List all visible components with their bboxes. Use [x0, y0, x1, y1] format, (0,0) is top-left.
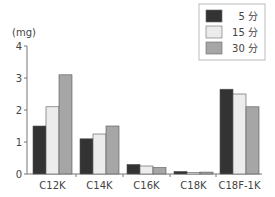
- x-tick-label: C12K: [39, 180, 66, 191]
- y-tick-label: 0: [16, 169, 22, 180]
- bar-group-c16k: [127, 164, 166, 174]
- bar: [153, 168, 166, 174]
- bar: [106, 126, 119, 174]
- bar: [46, 107, 59, 174]
- bar: [174, 171, 187, 174]
- bar: [220, 89, 233, 174]
- bar: [246, 107, 259, 174]
- x-tick-label: C18K: [180, 180, 207, 191]
- x-tick-label: C18F-1K: [219, 180, 261, 191]
- y-tick-label: 2: [16, 105, 22, 116]
- bar: [59, 75, 72, 174]
- legend: 5 分15 分30 分: [199, 4, 265, 60]
- legend-swatch: [206, 10, 222, 22]
- legend-item: 15 分: [206, 26, 258, 38]
- x-tick-label: C14K: [86, 180, 113, 191]
- bar: [33, 126, 46, 174]
- x-tick-label: C16K: [133, 180, 160, 191]
- y-tick-label: 1: [16, 137, 22, 148]
- legend-label: 5 分: [238, 11, 258, 22]
- bar: [80, 139, 93, 174]
- x-axis-labels: C12KC14KC16KC18KC18F-1K: [39, 174, 261, 191]
- y-tick-label: 4: [16, 41, 22, 52]
- bar: [140, 166, 153, 174]
- y-axis-unit: (mg): [12, 27, 36, 38]
- bar-group-c18f-1k: [220, 89, 259, 174]
- y-tick-label: 3: [16, 73, 22, 84]
- legend-swatch: [206, 42, 222, 54]
- bar-group-c18k: [174, 171, 213, 174]
- bar-chart: (mg) 01234 C12KC14KC16KC18KC18F-1K 5 分15…: [0, 0, 275, 197]
- y-axis-ticks: 01234: [16, 41, 27, 180]
- legend-label: 30 分: [232, 43, 258, 54]
- bar: [127, 164, 140, 174]
- bar-group-c12k: [33, 75, 72, 174]
- legend-item: 30 分: [206, 42, 258, 54]
- legend-label: 15 分: [232, 27, 258, 38]
- bar: [233, 94, 246, 174]
- bar-groups: [33, 75, 259, 174]
- bar: [200, 172, 213, 174]
- bar: [187, 172, 200, 174]
- legend-swatch: [206, 26, 222, 38]
- bar-group-c14k: [80, 126, 119, 174]
- bar: [93, 134, 106, 174]
